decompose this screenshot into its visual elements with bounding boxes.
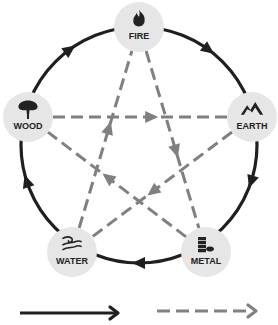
controlling-line-metal-to-wood [48,132,186,237]
five-elements-diagram: FIREEARTHMETALWATERWOOD [0,0,278,325]
element-nodes: FIREEARTHMETALWATERWOOD [3,2,277,277]
generating-arrow-earth-to-metal [243,174,258,190]
node-metal: METAL [181,227,231,277]
controlling-arrow-metal-to-wood [99,169,117,186]
generating-arrow-metal-to-water [132,257,145,269]
controlling-arrow-wood-to-earth [145,111,158,123]
generating-cycle-circle [21,27,257,263]
legend [20,305,256,319]
tree-trunk-icon [27,109,29,119]
controlling-cycle-lines [48,51,232,237]
node-earth: EARTH [227,92,277,142]
node-earth-label: EARTH [237,121,268,131]
node-earth-circle [227,92,277,142]
node-wood-label: WOOD [14,121,43,131]
controlling-line-water-to-fire [79,51,132,228]
controlling-line-earth-to-water [92,132,232,237]
controlling-line-fire-to-metal [146,51,199,228]
node-wood: WOOD [3,92,53,142]
node-water-circle [47,227,97,277]
node-fire-label: FIRE [129,31,150,41]
controlling-arrow-water-to-fire [101,120,116,136]
node-fire-circle [114,2,164,52]
controlling-arrow-fire-to-metal [168,143,183,159]
node-water-label: WATER [56,256,88,266]
node-fire: FIRE [114,2,164,52]
node-metal-label: METAL [191,256,222,266]
node-water: WATER [47,227,97,277]
